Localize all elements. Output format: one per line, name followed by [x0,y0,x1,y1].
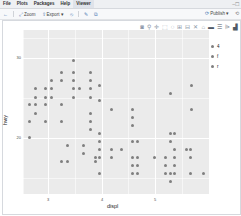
data-point[interactable] [131,124,134,127]
legend-item[interactable]: 4 [211,41,220,51]
data-point[interactable] [34,96,37,99]
data-point[interactable] [94,156,97,159]
data-point[interactable] [72,79,75,82]
data-point[interactable] [72,96,75,99]
data-point[interactable] [66,160,69,163]
data-point[interactable] [72,71,75,74]
brush-button[interactable]: ✎ [81,11,91,17]
data-point[interactable] [89,112,92,115]
data-point[interactable] [189,148,192,151]
data-point[interactable] [94,160,97,163]
data-point[interactable] [131,108,134,111]
plotly-logo-icon[interactable]: ▟ [233,23,238,31]
data-point[interactable] [164,164,167,167]
data-point[interactable] [28,120,31,123]
data-point[interactable] [131,164,134,167]
data-point[interactable] [44,120,47,123]
data-point[interactable] [131,116,134,119]
data-point[interactable] [34,87,37,90]
data-point[interactable] [153,156,156,159]
legend-item[interactable]: r [211,61,220,71]
data-point[interactable] [78,87,81,90]
data-point[interactable] [131,140,134,143]
compare-hover-icon[interactable]: ☰ [217,23,222,31]
data-point[interactable] [60,103,63,106]
data-point[interactable] [173,156,176,159]
data-point[interactable] [60,160,63,163]
data-point[interactable] [164,172,167,175]
data-point[interactable] [169,172,172,175]
data-point[interactable] [82,144,85,147]
copy-button[interactable]: ⧉ [91,11,101,18]
data-point[interactable] [131,156,134,159]
data-point[interactable] [136,164,139,167]
data-point[interactable] [28,103,31,106]
menu-plots[interactable]: Plots [14,0,31,8]
data-point[interactable] [185,148,188,151]
refresh-button[interactable]: ⟲ [235,10,239,16]
data-point[interactable] [98,132,101,135]
data-point[interactable] [173,164,176,167]
data-point[interactable] [89,96,92,99]
data-point[interactable] [66,144,69,147]
data-point[interactable] [164,156,167,159]
window-controls[interactable]: –☐ [232,1,239,7]
data-point[interactable] [110,108,113,111]
data-point[interactable] [44,103,47,106]
data-point[interactable] [190,108,193,111]
data-point[interactable] [72,87,75,90]
data-point[interactable] [173,172,176,175]
data-point[interactable] [34,103,37,106]
data-point[interactable] [89,79,92,82]
menu-viewer[interactable]: Viewer [73,0,93,8]
data-point[interactable] [169,92,172,95]
data-point[interactable] [50,87,53,90]
data-point[interactable] [72,59,75,62]
menu-help[interactable]: Help [58,0,74,8]
data-point[interactable] [89,87,92,90]
data-point[interactable] [89,120,92,123]
data-point[interactable] [189,156,192,159]
data-point[interactable] [190,84,193,87]
data-point[interactable] [110,156,113,159]
data-point[interactable] [169,140,172,143]
data-point[interactable] [89,128,92,131]
data-point[interactable] [50,96,53,99]
data-point[interactable] [50,79,53,82]
export-button[interactable]: ⇪ Export ▾ [39,11,67,17]
data-point[interactable] [169,132,172,135]
data-point[interactable] [60,79,63,82]
data-point[interactable] [98,148,101,151]
data-point[interactable] [169,180,172,183]
menu-packages[interactable]: Packages [31,0,58,8]
data-point[interactable] [110,148,113,151]
data-point[interactable] [34,112,37,115]
data-point[interactable] [60,120,63,123]
data-point[interactable] [189,172,192,175]
plot-panel[interactable] [23,30,209,194]
data-point[interactable] [173,132,176,135]
data-point[interactable] [202,172,205,175]
clear-button[interactable]: ⦸ [67,11,76,18]
data-point[interactable] [136,140,139,143]
data-point[interactable] [98,84,101,87]
closest-hover-icon[interactable]: ⩥ [225,23,230,31]
data-point[interactable] [98,172,101,175]
data-point[interactable] [136,172,139,175]
data-point[interactable] [60,71,63,74]
data-point[interactable] [98,156,101,159]
data-point[interactable] [82,152,85,155]
publish-button[interactable]: ⟳ Publish ▾ [205,10,229,16]
data-point[interactable] [98,99,101,102]
data-point[interactable] [44,87,47,90]
data-point[interactable] [131,172,134,175]
menu-file[interactable]: File [0,0,14,8]
data-point[interactable] [173,148,176,151]
data-point[interactable] [98,140,101,143]
back-button[interactable]: ← [0,11,11,17]
legend-item[interactable]: f [211,51,220,61]
zoom-button[interactable]: ⤢ Zoom [16,11,39,18]
data-point[interactable] [120,148,123,151]
data-point[interactable] [89,71,92,74]
data-point[interactable] [136,156,139,159]
